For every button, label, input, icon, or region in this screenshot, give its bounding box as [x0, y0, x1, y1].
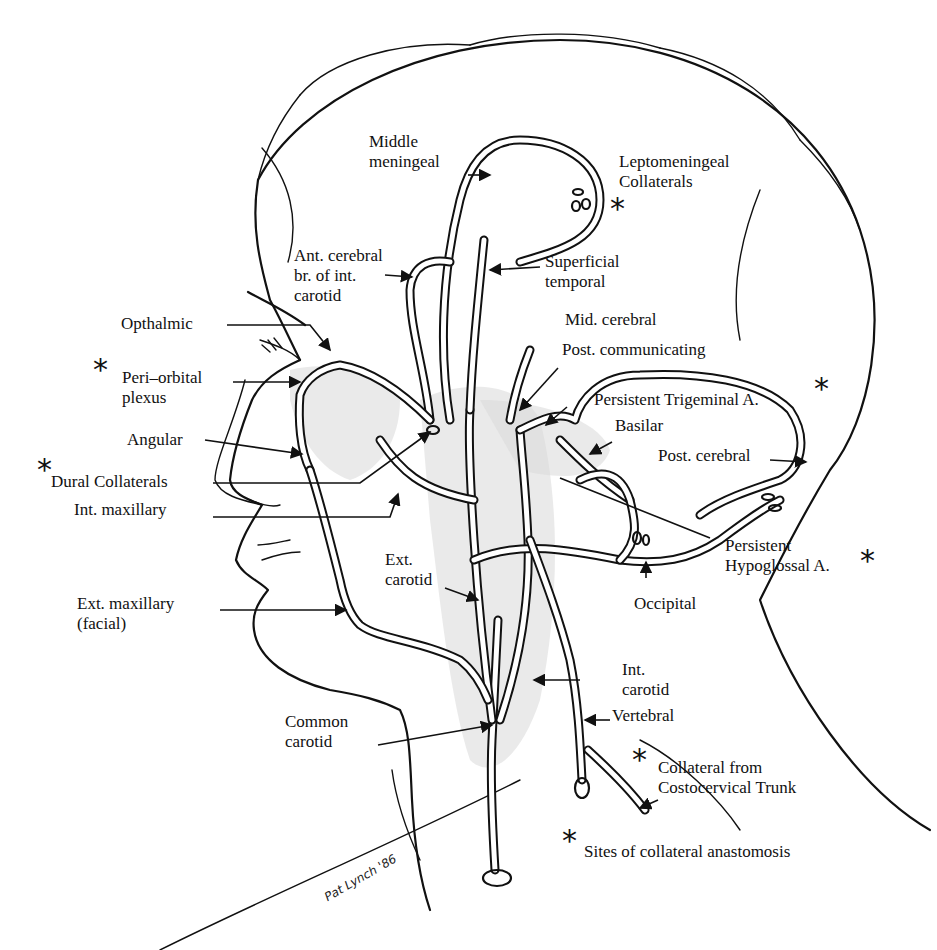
label-line: Collaterals	[619, 172, 729, 192]
label-line: Leptomeningeal	[619, 152, 729, 172]
label-angular: Angular	[127, 430, 183, 450]
label-persistent-trigeminal: Persistent Trigeminal A.	[594, 390, 759, 410]
label-ext-maxillary: Ext. maxillary (facial)	[77, 594, 174, 634]
label-persistent-hypoglossal: Persistent Hypoglossal A.	[725, 536, 830, 576]
label-mid-cerebral: Mid. cerebral	[565, 310, 657, 330]
label-occipital: Occipital	[634, 594, 696, 614]
label-line: carotid	[294, 286, 383, 306]
label-superficial-temporal: Superficial temporal	[545, 252, 620, 292]
label-ext-carotid: Ext. carotid	[385, 550, 432, 590]
label-line: Superficial	[545, 252, 620, 272]
face-profile	[215, 380, 300, 560]
label-line: Common	[285, 712, 348, 732]
label-line: Ext. maxillary	[77, 594, 174, 614]
label-line: carotid	[622, 680, 669, 700]
label-int-carotid: Int. carotid	[622, 660, 669, 700]
label-line: (facial)	[77, 614, 174, 634]
label-line: Persistent	[725, 536, 830, 556]
legend-text: Sites of collateral anastomosis	[584, 842, 790, 862]
asterisk-leptomeningeal: *	[610, 194, 625, 224]
label-common-carotid: Common carotid	[285, 712, 348, 752]
label-vertebral: Vertebral	[612, 706, 674, 726]
label-line: Collateral from	[658, 758, 796, 778]
label-peri-orbital: Peri–orbital plexus	[122, 368, 202, 408]
legend-asterisk: *	[562, 826, 577, 856]
label-line: Hypoglossal A.	[725, 556, 830, 576]
label-opthalmic: Opthalmic	[121, 314, 193, 334]
label-dural-collaterals: Dural Collaterals	[51, 472, 168, 492]
asterisk-persistent-trigeminal: *	[814, 374, 829, 404]
label-line: carotid	[385, 570, 432, 590]
label-line: Int.	[622, 660, 669, 680]
label-line: Costocervical Trunk	[658, 778, 796, 798]
label-collateral-costocervical: Collateral from Costocervical Trunk	[658, 758, 796, 798]
label-int-maxillary: Int. maxillary	[74, 500, 167, 520]
label-line: temporal	[545, 272, 620, 292]
label-line: Ext.	[385, 550, 432, 570]
label-line: br. of int.	[294, 266, 383, 286]
label-line: Peri–orbital	[122, 368, 202, 388]
label-line: Middle	[369, 132, 440, 152]
label-line: plexus	[122, 388, 202, 408]
label-ant-cerebral: Ant. cerebral br. of int. carotid	[294, 246, 383, 306]
label-post-communicating: Post. communicating	[562, 340, 706, 360]
asterisk-persistent-hypoglossal: *	[860, 546, 875, 576]
asterisk-dural-collaterals: *	[37, 455, 52, 485]
label-post-cerebral: Post. cerebral	[658, 446, 751, 466]
label-basilar: Basilar	[615, 416, 663, 436]
label-middle-meningeal: Middle meningeal	[369, 132, 440, 172]
asterisk-costocervical: *	[632, 745, 647, 775]
label-line: Ant. cerebral	[294, 246, 383, 266]
asterisk-peri-orbital: *	[93, 355, 108, 385]
label-leptomeningeal: Leptomeningeal Collaterals	[619, 152, 729, 192]
label-line: carotid	[285, 732, 348, 752]
label-line: meningeal	[369, 152, 440, 172]
